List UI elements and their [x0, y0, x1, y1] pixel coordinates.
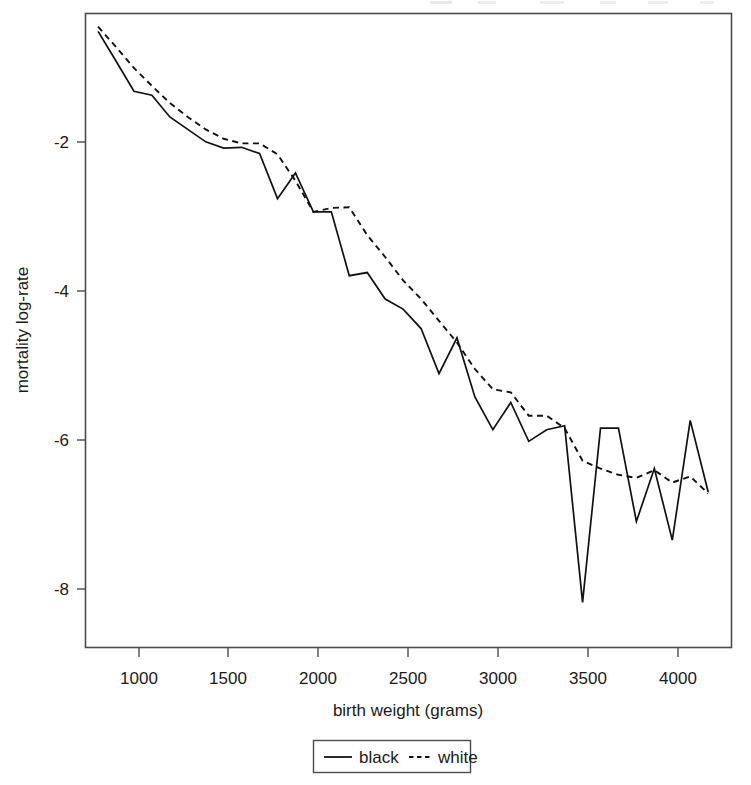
- x-tick-label-5: 3500: [569, 669, 607, 688]
- x-tick-label-3: 2500: [389, 669, 427, 688]
- x-tick-label-6: 4000: [659, 669, 697, 688]
- cropped-caption-artifact: [430, 1, 714, 4]
- x-tick-label-1: 1500: [209, 669, 247, 688]
- chart-legend[interactable]: black white: [314, 741, 478, 773]
- x-axis-title: birth weight (grams): [333, 701, 483, 720]
- y-tick-label-2: -6: [54, 431, 69, 450]
- y-axis-title: mortality log-rate: [13, 267, 32, 394]
- y-axis-tick-labels: -2 -4 -6 -8: [54, 133, 69, 599]
- y-axis-ticks: [77, 142, 86, 589]
- y-tick-label-1: -4: [54, 282, 69, 301]
- legend-label-black: black: [359, 748, 399, 767]
- x-tick-label-2: 2000: [299, 669, 337, 688]
- x-tick-label-4: 3000: [479, 669, 517, 688]
- plot-frame: [86, 14, 732, 648]
- series-line-black: [98, 31, 708, 602]
- series-line-white: [98, 27, 708, 494]
- y-tick-label-0: -2: [54, 133, 69, 152]
- y-tick-label-3: -8: [54, 580, 69, 599]
- mortality-log-rate-line-chart: -2 -4 -6 -8 1000 1500 2000 2500 3000 350…: [0, 0, 751, 785]
- x-axis-ticks: [139, 648, 678, 658]
- x-tick-label-0: 1000: [120, 669, 158, 688]
- x-axis-tick-labels: 1000 1500 2000 2500 3000 3500 4000: [120, 669, 697, 688]
- chart-figure: -2 -4 -6 -8 1000 1500 2000 2500 3000 350…: [0, 0, 751, 785]
- legend-label-white: white: [437, 748, 478, 767]
